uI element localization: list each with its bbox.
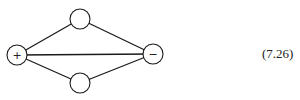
node-top [70,9,90,29]
node-bottom [70,73,90,93]
edge-bottom-minus [80,54,153,83]
node-minus-label: − [148,48,157,61]
node-plus-label: + [12,49,21,62]
graph-diagram: + − [0,0,300,100]
edge-plus-minus [17,54,153,55]
edge-plus-top [17,19,80,55]
equation-number: (7.26) [262,46,293,62]
edges [17,19,153,83]
nodes [7,9,163,93]
edge-top-minus [80,19,153,54]
